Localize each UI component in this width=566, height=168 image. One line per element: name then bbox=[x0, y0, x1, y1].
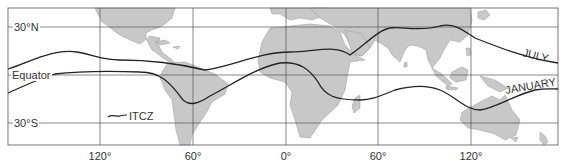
borneo bbox=[450, 67, 468, 82]
lat-label-30s: 30°S bbox=[13, 117, 39, 129]
july-label: JULY bbox=[522, 46, 551, 64]
lon-label-60e: 60° bbox=[370, 150, 387, 162]
australia bbox=[460, 95, 520, 140]
japan bbox=[478, 10, 490, 20]
itcz-legend-label: ITCZ bbox=[128, 110, 154, 122]
lon-label-120w: 120° bbox=[89, 150, 112, 162]
lat-label-equator: Equator bbox=[11, 69, 52, 81]
tasmania bbox=[511, 137, 518, 142]
lon-label-0: 0° bbox=[281, 150, 292, 162]
january-label: JANUARY bbox=[504, 75, 557, 96]
madagascar bbox=[352, 95, 360, 113]
itcz-world-map: JULY JANUARY bbox=[0, 0, 566, 168]
land-masses bbox=[95, 8, 548, 145]
philippines bbox=[466, 48, 471, 56]
lon-label-60w: 60° bbox=[185, 150, 202, 162]
lon-label-120e: 120° bbox=[460, 150, 483, 162]
north-america bbox=[95, 8, 176, 64]
new-zealand bbox=[540, 132, 548, 145]
itcz-legend-line bbox=[108, 115, 127, 117]
lat-label-30n: 30°N bbox=[13, 21, 40, 33]
sumatra bbox=[432, 68, 452, 86]
sri-lanka bbox=[404, 62, 407, 67]
java bbox=[446, 86, 458, 90]
